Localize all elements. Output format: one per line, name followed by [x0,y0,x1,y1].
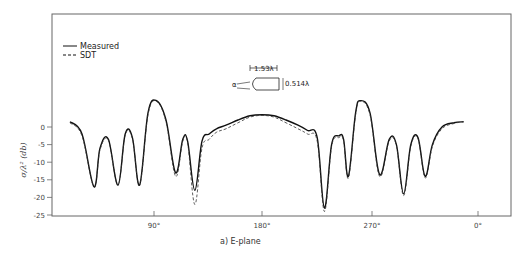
x-tick-label: 0° [474,222,482,230]
series-sdt-line [70,101,464,212]
y-tick-label: -10 [34,159,45,167]
x-tick-label: 270° [364,222,381,230]
cylinder-shape [253,78,280,90]
y-tick-label: 0 [41,124,45,132]
chart-caption: a) E-plane [220,237,261,246]
x-axis-ticks: 90°180°270°0° [148,211,482,230]
series-measured-line [70,100,464,208]
legend-label-sdt: SDT [80,51,96,60]
y-tick-label: -15 [34,176,45,184]
inset-diameter-label: 0.514λ [285,80,309,88]
inset-length-label: 1.53λ [254,65,274,73]
inset-angle-label: α [232,81,237,89]
radar-cross-section-chart: 0-5-10-15-20-25 90°180°270°0° σ/λ² (db) … [0,0,526,255]
legend-label-measured: Measured [80,42,119,51]
object-inset-diagram: 1.53λ 0.514λ α [232,65,309,90]
x-tick-label: 180° [254,222,271,230]
x-tick-label: 90° [148,222,160,230]
y-axis-ticks: 0-5-10-15-20-25 [34,124,52,220]
plot-frame [52,14,511,216]
y-axis-label: σ/λ² (db) [19,142,28,177]
y-tick-label: -20 [34,194,45,202]
legend: Measured SDT [63,42,119,60]
y-tick-label: -25 [34,212,45,220]
y-tick-label: -5 [38,141,45,149]
